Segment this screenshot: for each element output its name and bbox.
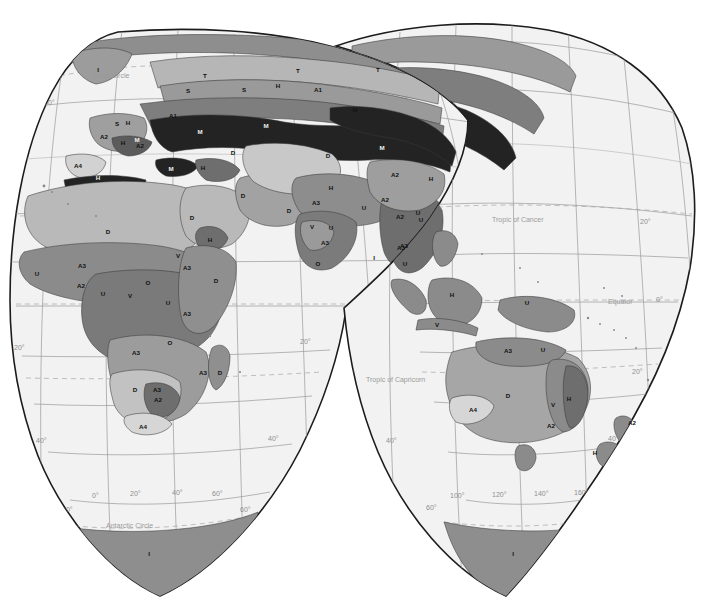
zone-code-label: A2 [391,171,399,178]
zone-code-label: A2 [628,419,636,426]
zone-code-label: A3 [321,239,329,246]
zone-code-label: H [96,174,101,181]
zone-code-label: D [287,207,292,214]
zone-code-label: A2 [77,282,85,289]
zone-code-label: U [101,290,106,297]
zone-code-label: H [201,164,206,171]
zone-code-label: A3 [397,244,405,251]
lat-label-20-right-s: 20° [632,368,643,375]
lat-label-60-right: 60° [426,504,437,511]
zone-code-label: U [329,224,334,231]
zone-code-label: T [203,72,207,79]
zone-code-label: M [263,122,268,129]
zone-code-label: A3 [183,264,191,271]
zone-code-label: D [214,277,219,284]
zone-code-label: D [231,149,236,156]
zone-code-label: A4 [74,162,82,169]
zone-code-label: A2 [136,142,144,149]
zone-code-label: I [373,254,375,261]
lon-label-60-left: 60° [212,490,223,497]
zone-code-label: U [416,209,421,216]
zone-code-label: H [450,291,455,298]
zone-code-label: H [429,175,434,182]
lat-label-40-right: 40° [386,437,397,444]
zone-code-label: O [168,339,173,346]
zone-code-label: H [276,82,281,89]
zone-code-label: A1 [314,86,322,93]
zone-code-label: D [241,192,246,199]
zone-code-label: A1 [169,112,177,119]
zone-code-label: H [353,106,358,113]
lon-label-140-right: 140° [534,490,549,497]
zone-code-label: M [168,165,173,172]
zone-code-label: U [525,299,530,306]
lon-label-40-left: 40° [172,489,183,496]
zone-code-label: O [146,279,151,286]
zone-code-label: S [186,87,190,94]
zone-code-label: D [190,214,195,221]
zone-code-label: U [166,299,171,306]
lon-label-0-left: 0° [92,492,99,499]
lat-label-40-left-b: 40° [268,435,279,442]
zone-code-label: D [133,386,138,393]
lat-label-60-right-b: 60° [596,503,607,510]
zone-code-label: A2 [154,396,162,403]
zone-code-label: S [115,120,119,127]
equator-label: Equator [608,298,633,306]
zone-code-label: D [506,392,511,399]
zone-code-label: A3 [312,199,320,206]
zone-code-label: D [218,369,223,376]
zone-code-label: U [541,346,546,353]
zone-code-label: A3 [132,349,140,356]
zone-code-label: A2 [396,213,404,220]
zone-code-label: A3 [153,386,161,393]
tropic-of-cancer-label: Tropic of Cancer [492,216,544,224]
zone-code-label: M [197,128,202,135]
zone-code-label: A4 [139,423,147,430]
zone-code-label: I [148,550,150,557]
zone-code-label: A2 [547,422,555,429]
zone-code-label: O [316,260,321,267]
zone-code-label: H [329,184,334,191]
lat-label-0-right: 0° [656,296,663,303]
zone-code-label: A2 [100,133,108,140]
world-map-figure: 60° 20° 20° 40° 40° 60° 60° 0° 20° 40° 6… [0,0,703,612]
zone-code-label: H [126,119,131,126]
lat-label-40-right-b: 40° [608,435,619,442]
lat-label-20-left-b: 20° [300,338,311,345]
lon-label-20-left: 20° [130,490,141,497]
zone-code-label: U [362,204,367,211]
zone-code-label: U [35,270,40,277]
zone-code-label: A4 [469,406,477,413]
zone-code-label: A3 [78,262,86,269]
zone-code-label: T [296,67,300,74]
lat-label-40-left: 40° [36,437,47,444]
zone-code-label: D [326,152,331,159]
zone-code-label: T [376,66,380,73]
lat-label-20-left: 20° [14,344,25,351]
lon-label-120-right: 120° [492,491,507,498]
zone-code-label: H [121,139,126,146]
zone-code-label: I [97,66,99,73]
zone-code-label: U [403,260,408,267]
zone-code-label: A3 [504,347,512,354]
zone-code-label: H [593,449,598,456]
zone-code-label: A3 [199,369,207,376]
zone-code-label: H [208,236,213,243]
tropic-of-capricorn-label: Tropic of Capricorn [366,376,425,384]
zone-code-label: H [567,395,572,402]
zone-code-label: D [106,228,111,235]
lat-label-60-left-c: 60° [240,506,251,513]
zone-code-label: A2 [381,196,389,203]
antarctic-circle-label: Antarctic Circle [106,522,153,529]
zone-code-label: S [242,86,246,93]
map-svg: 60° 20° 20° 40° 40° 60° 60° 0° 20° 40° 6… [0,0,703,612]
lon-label-100-right: 100° [450,492,465,499]
lat-label-20-right-n: 20° [640,218,651,225]
zone-code-label: U [419,216,424,223]
zone-code-label: I [512,550,514,557]
zone-code-label: A3 [183,310,191,317]
arctic-circle-label: Arctic Circle [92,72,129,79]
zone-code-label: M [379,144,384,151]
